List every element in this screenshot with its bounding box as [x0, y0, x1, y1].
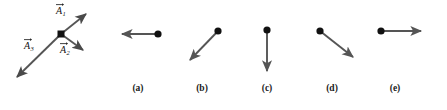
option-label-e: (e) — [375, 84, 415, 94]
vector-label-a1: A1 — [56, 6, 66, 17]
vector-label-a2: A2 — [60, 45, 70, 56]
option-e-vector — [377, 27, 421, 34]
option-a-vector — [122, 30, 162, 37]
option-b-vector — [190, 27, 222, 60]
origin-square-dot — [58, 31, 65, 38]
option-d-shaft — [320, 31, 353, 57]
option-c-vector — [263, 26, 270, 71]
option-b-shaft — [190, 31, 218, 60]
option-c-dot — [263, 26, 270, 33]
vector-label-a2-subscript: 2 — [66, 49, 69, 56]
option-d-vector — [316, 27, 353, 57]
option-d-dot — [316, 27, 323, 34]
option-label-d: (d) — [312, 84, 352, 94]
option-a-dot — [154, 30, 161, 37]
option-label-a: (a) — [118, 84, 158, 94]
vector-label-a3-base: A — [24, 40, 30, 51]
vector-label-a3: A3 — [24, 41, 34, 52]
vector-figure: A1 A2 A3 (a) (b) (c) (d) (e) — [0, 0, 447, 110]
option-b-dot — [214, 27, 221, 34]
vector-label-a1-subscript: 1 — [62, 10, 65, 17]
option-label-b: (b) — [182, 84, 222, 94]
vector-label-a1-base: A — [56, 5, 62, 16]
option-label-c: (c) — [247, 84, 287, 94]
option-e-dot — [377, 27, 384, 34]
vector-label-a3-subscript: 3 — [30, 45, 33, 52]
vector-label-a2-base: A — [60, 44, 66, 55]
